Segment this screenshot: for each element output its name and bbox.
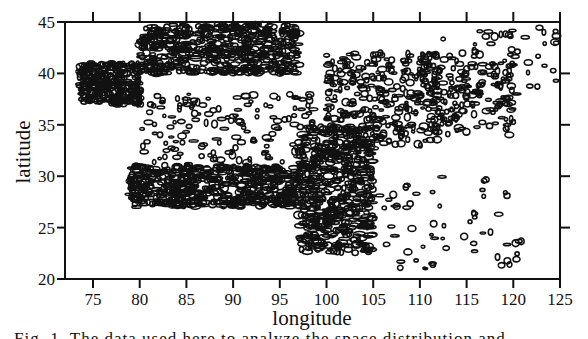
x-tick-label: 115 xyxy=(454,290,479,309)
y-tick-label: 40 xyxy=(38,64,55,83)
y-tick-label: 30 xyxy=(38,167,55,186)
contour-scatter-data xyxy=(76,21,561,270)
x-tick-label: 90 xyxy=(225,290,242,309)
x-tick-label: 110 xyxy=(407,290,432,309)
x-tick-label: 80 xyxy=(131,290,148,309)
x-tick-label: 120 xyxy=(501,290,527,309)
x-tick-label: 125 xyxy=(547,290,573,309)
x-tick-label: 85 xyxy=(178,290,195,309)
y-tick-label: 25 xyxy=(38,219,55,238)
contour-blobs xyxy=(76,21,561,270)
figure: 7580859095100105110115120125 20253035404… xyxy=(0,0,588,339)
x-tick-label: 75 xyxy=(85,290,102,309)
figure-caption: Fig. 1. The data used here to analyze th… xyxy=(14,327,506,339)
y-tick-label: 35 xyxy=(38,116,55,135)
y-tick-label: 45 xyxy=(38,13,55,32)
x-tick-label: 105 xyxy=(360,290,386,309)
y-axis-title: latitude xyxy=(11,121,35,184)
y-tick-label: 20 xyxy=(38,270,55,289)
